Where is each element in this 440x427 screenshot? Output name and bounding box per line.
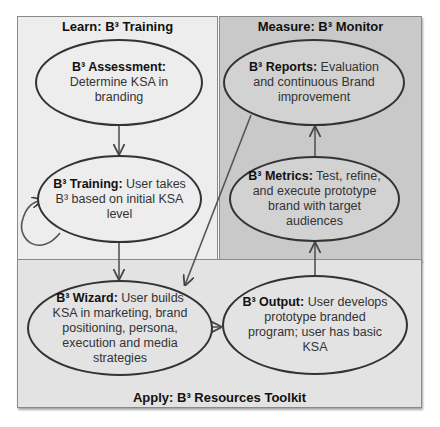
node-reports-label: B³ Reports:	[249, 60, 317, 74]
node-metrics: B³ Metrics: Test, refine, and execute pr…	[229, 156, 400, 242]
node-assessment-text: Determine KSA in branding	[70, 75, 169, 104]
node-wizard-label: B³ Wizard:	[56, 291, 118, 305]
node-output: B³ Output: User develops prototype brand…	[222, 275, 408, 375]
node-training-label: B³ Training:	[53, 177, 122, 191]
node-wizard: B³ Wizard: User builds KSA in marketing,…	[27, 280, 213, 376]
node-assessment: B³ Assessment:Determine KSA in branding	[35, 39, 203, 126]
node-assessment-label: B³ Assessment:	[72, 60, 166, 74]
node-output-label: B³ Output:	[242, 295, 304, 309]
node-reports: B³ Reports: Evaluation and continuous Br…	[223, 39, 405, 126]
node-metrics-label: B³ Metrics:	[248, 169, 313, 183]
node-training: B³ Training: User takes B³ based on init…	[37, 155, 202, 243]
